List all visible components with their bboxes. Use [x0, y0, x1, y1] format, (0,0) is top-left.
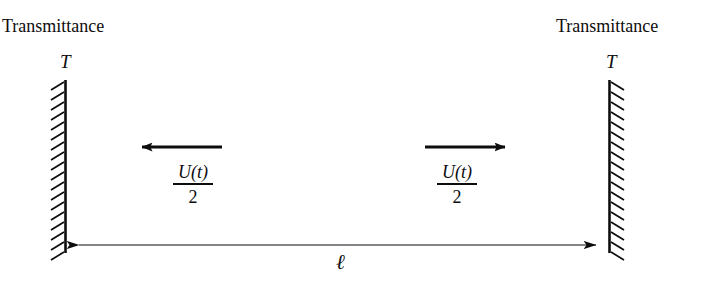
right-wave-amplitude-fraction: U(t) 2	[437, 163, 477, 206]
right-mirror-wall	[610, 80, 625, 260]
left-wave-amplitude-fraction: U(t) 2	[173, 163, 213, 206]
transmittance-label-left: Transmittance	[2, 17, 104, 35]
left-mirror-wall	[51, 80, 66, 260]
right-wave-numerator: U(t)	[440, 163, 474, 183]
mirror-transmittance-symbol-left: T	[60, 52, 71, 71]
transmittance-label-right: Transmittance	[556, 17, 658, 35]
left-wave-denominator: 2	[189, 185, 198, 206]
right-wave-denominator: 2	[453, 185, 462, 206]
right-mirror-hatching	[611, 82, 624, 260]
left-mirror-hatching	[51, 82, 64, 260]
cavity-length-label: ℓ	[336, 252, 345, 273]
cavity-diagram-figure: Transmittance Transmittance T T U(t) 2 U…	[0, 0, 709, 288]
left-wave-numerator: U(t)	[176, 163, 210, 183]
mirror-transmittance-symbol-right: T	[606, 52, 617, 71]
diagram-canvas	[0, 0, 709, 288]
